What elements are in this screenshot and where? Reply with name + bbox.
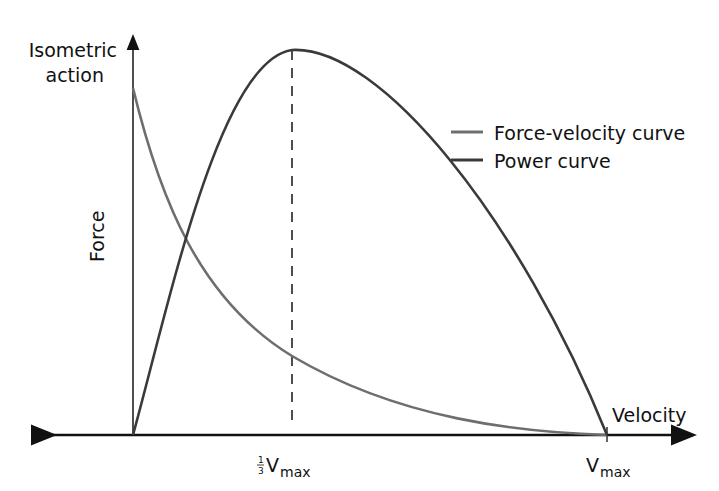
y-axis-label: Force [86,211,108,262]
tick-frac-den: 3 [258,466,264,476]
y-top-label-line2: action [46,64,104,86]
legend: Force-velocity curve Power curve [451,122,685,172]
tick-frac-num: 1 [258,455,264,465]
tick-sub: max [600,464,631,480]
chart-canvas: Force-velocity curve Power curve Isometr… [0,0,719,491]
tick-v: V [586,454,599,476]
tick-third-vmax: 1 3 V max [257,454,311,480]
x-axis-label: Velocity [612,404,687,426]
tick-sub: max [280,464,311,480]
legend-label-force-velocity: Force-velocity curve [494,122,685,144]
power-curve [133,50,607,435]
legend-label-power: Power curve [494,150,611,172]
tick-vmax: V max [586,454,631,480]
tick-v: V [266,454,279,476]
y-top-label-line1: Isometric [29,39,117,61]
